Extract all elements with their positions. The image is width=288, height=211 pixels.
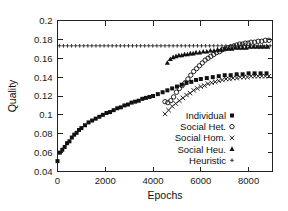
- data-point: [171, 95, 175, 99]
- data-point: [200, 44, 204, 48]
- y-tick-label: 0.14: [34, 72, 53, 83]
- data-point: [62, 44, 66, 48]
- data-point: [79, 126, 83, 130]
- data-point: [122, 44, 126, 48]
- chart-legend: IndividualSocial Het.Social Hom.Social H…: [175, 110, 235, 166]
- data-point: [245, 75, 249, 79]
- data-point: [197, 50, 202, 55]
- data-point: [163, 99, 167, 103]
- data-point: [205, 76, 209, 80]
- y-tick-label: 0.06: [34, 147, 53, 158]
- data-point: [208, 44, 212, 48]
- data-point: [56, 159, 60, 163]
- x-tick-label: 0: [55, 175, 60, 186]
- data-point: [216, 44, 220, 48]
- data-point: [126, 102, 130, 106]
- data-point: [234, 76, 238, 80]
- data-point: [161, 90, 165, 94]
- data-point: [165, 88, 169, 92]
- data-point: [133, 100, 137, 104]
- data-point: [175, 44, 179, 48]
- data-point: [192, 44, 196, 48]
- x-tick-label: 4000: [142, 175, 163, 186]
- data-point: [104, 111, 108, 115]
- data-point: [130, 101, 134, 105]
- y-tick-label: 0.2: [39, 15, 52, 26]
- data-point: [170, 104, 174, 108]
- legend-marker-filled-triangle: [229, 146, 234, 151]
- data-point: [140, 97, 144, 101]
- y-tick-label: 0.08: [34, 128, 53, 139]
- data-point: [118, 44, 122, 48]
- data-point: [106, 44, 110, 48]
- data-point: [90, 119, 94, 123]
- legend-label-social-het: Social Het.: [180, 121, 226, 132]
- x-tick-label: 8000: [238, 175, 259, 186]
- y-tick-label: 0.18: [34, 34, 53, 45]
- data-point: [156, 92, 160, 96]
- data-point: [74, 44, 78, 48]
- data-point: [151, 44, 155, 48]
- data-point: [131, 44, 135, 48]
- data-point: [135, 44, 139, 48]
- y-tick-label: 0.04: [34, 166, 53, 177]
- data-point: [114, 44, 118, 48]
- y-tick-label: 0.16: [34, 53, 53, 64]
- data-point: [110, 44, 114, 48]
- data-point: [112, 108, 116, 112]
- data-point: [217, 79, 221, 83]
- data-point: [86, 44, 90, 48]
- data-point: [235, 72, 239, 76]
- data-point: [163, 44, 167, 48]
- y-tick-label: 0.12: [34, 90, 53, 101]
- legend-marker-filled-square: [230, 114, 234, 118]
- data-point: [171, 44, 175, 48]
- data-point: [199, 77, 203, 81]
- data-point: [194, 78, 198, 82]
- data-point: [212, 44, 216, 48]
- data-point: [179, 44, 183, 48]
- data-point: [267, 74, 271, 78]
- legend-marker-plus: [230, 158, 234, 162]
- legend-marker-cross: [230, 136, 234, 140]
- x-tick-label: 6000: [190, 175, 211, 186]
- legend-marker-open-circle: [230, 125, 234, 129]
- data-point: [196, 44, 200, 48]
- data-point: [183, 44, 187, 48]
- data-point: [181, 96, 185, 100]
- legend-label-social-heu: Social Heu.: [177, 144, 226, 155]
- data-point: [70, 44, 74, 48]
- legend-label-individual: Individual: [186, 110, 226, 121]
- y-axis-title: Quality: [6, 79, 18, 112]
- data-point: [151, 94, 155, 98]
- chart-canvas: 0.040.060.080.10.120.140.160.180.2020004…: [0, 0, 288, 211]
- data-point: [119, 105, 123, 109]
- data-series: [56, 38, 273, 163]
- data-point: [101, 113, 105, 117]
- data-point: [94, 44, 98, 48]
- legend-label-social-hom: Social Hom.: [175, 132, 226, 143]
- data-point: [90, 44, 94, 48]
- data-point: [122, 103, 126, 107]
- data-point: [102, 44, 106, 48]
- data-point: [58, 44, 62, 48]
- data-point: [143, 44, 147, 48]
- data-point: [87, 120, 91, 124]
- data-point: [155, 44, 159, 48]
- data-point: [147, 44, 151, 48]
- data-point: [83, 123, 87, 127]
- data-point: [144, 96, 148, 100]
- data-point: [211, 75, 215, 79]
- data-point: [204, 49, 209, 54]
- series-individual: [56, 71, 269, 163]
- data-point: [66, 44, 70, 48]
- data-point: [115, 106, 119, 110]
- x-axis-title: Epochs: [147, 189, 182, 201]
- x-tick-label: 2000: [95, 175, 116, 186]
- data-point: [159, 44, 163, 48]
- data-point: [204, 44, 208, 48]
- axes: 0.040.060.080.10.120.140.160.180.2020004…: [34, 15, 273, 186]
- data-point: [187, 44, 191, 48]
- data-point: [167, 44, 171, 48]
- data-point: [78, 44, 82, 48]
